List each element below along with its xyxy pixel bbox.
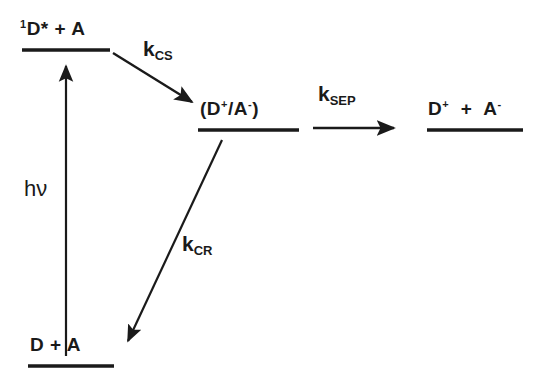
diagram-vector-layer xyxy=(0,0,533,383)
state-label-separated: D+ + A- xyxy=(428,98,502,120)
energy-level-diagram: 1D* + A (D+/A-) D+ + A- D + A kCS kSEP k… xyxy=(0,0,533,383)
rate-label-kcs: kCS xyxy=(143,37,173,61)
state-label-excited: 1D* + A xyxy=(20,18,85,40)
photon-label-hv: hν xyxy=(24,176,47,202)
state-label-ctstate: (D+/A-) xyxy=(200,98,259,120)
state-label-ground: D + A xyxy=(30,334,81,356)
rate-label-kcr: kCR xyxy=(182,232,212,256)
rate-label-ksep: kSEP xyxy=(318,82,356,106)
